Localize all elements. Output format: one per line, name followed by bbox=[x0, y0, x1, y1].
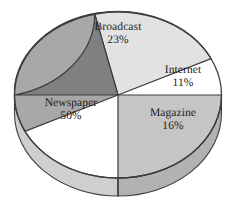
pie-chart-graphic bbox=[0, 0, 236, 207]
pie-top-face bbox=[14, 11, 221, 178]
pie-slice-magazine bbox=[118, 95, 222, 178]
pie-chart: Broadcast 23% Internet 11% Magazine 16% … bbox=[0, 0, 236, 207]
